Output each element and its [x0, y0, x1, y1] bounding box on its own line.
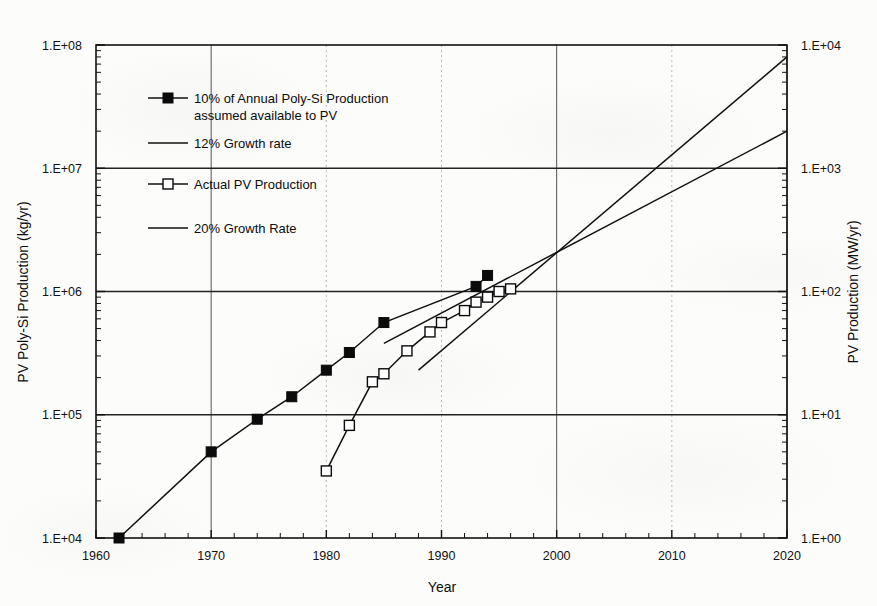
data-point-marker [287, 392, 297, 402]
x-tick-label: 1980 [312, 549, 340, 563]
x-axis-tick-labels: 1960197019801990200020102020 [82, 549, 801, 563]
data-point-marker [321, 365, 331, 375]
data-point-marker [379, 369, 389, 379]
y-left-axis-title: PV Poly-Si Production (kg/yr) [15, 201, 31, 382]
y-right-tick-label: 1.E+01 [801, 408, 841, 422]
data-point-marker [206, 447, 216, 457]
data-point-marker [506, 284, 516, 294]
y-left-axis-ticks [96, 45, 105, 538]
y-left-tick-label: 1.E+07 [42, 162, 82, 176]
series-line [119, 275, 488, 538]
data-point-marker [483, 270, 493, 280]
y-right-tick-label: 1.E+02 [801, 285, 841, 299]
data-point-marker [252, 414, 262, 424]
legend-item: 12% Growth rate [148, 136, 292, 151]
x-tick-label: 2010 [658, 549, 686, 563]
y-right-tick-label: 1.E+03 [801, 162, 841, 176]
legend-marker-filled-square [163, 93, 173, 103]
series-line [384, 131, 787, 343]
y-right-tick-label: 1.E+00 [801, 532, 841, 546]
legend-label: 20% Growth Rate [194, 221, 297, 236]
data-point-marker [425, 327, 435, 337]
y-right-tick-label: 1.E+04 [801, 39, 841, 53]
data-marker-group [114, 270, 516, 543]
x-axis-ticks [96, 530, 787, 538]
data-point-marker [483, 292, 493, 302]
log-line-chart: 1960197019801990200020102020 1.E+041.E+0… [0, 0, 877, 606]
data-point-marker [460, 306, 470, 316]
legend-item: 20% Growth Rate [148, 221, 297, 236]
x-axis-title: Year [428, 579, 457, 595]
series-line [418, 57, 787, 370]
x-tick-label: 2000 [543, 549, 571, 563]
y-right-axis-tick-labels: 1.E+001.E+011.E+021.E+031.E+04 [801, 39, 841, 546]
legend-label: 12% Growth rate [194, 136, 292, 151]
legend-item: 10% of Annual Poly-Si Productionassumed … [148, 91, 388, 124]
y-left-tick-label: 1.E+08 [42, 39, 82, 53]
x-tick-label: 1970 [197, 549, 225, 563]
legend-label: Actual PV Production [194, 177, 317, 192]
chart-figure: 1960197019801990200020102020 1.E+041.E+0… [0, 0, 877, 606]
data-point-marker [114, 533, 124, 543]
data-point-marker [437, 318, 447, 328]
data-point-marker [402, 346, 412, 356]
x-tick-label: 1960 [82, 549, 110, 563]
x-tick-label: 1990 [428, 549, 456, 563]
y-right-axis-title: PV Production (MW/yr) [845, 220, 861, 363]
legend-item: Actual PV Production [148, 177, 317, 192]
legend-label: 10% of Annual Poly-Si Production [194, 91, 388, 106]
y-left-axis-tick-labels: 1.E+041.E+051.E+061.E+071.E+08 [42, 39, 82, 546]
legend-label-continued: assumed available to PV [194, 108, 337, 123]
data-point-marker [367, 377, 377, 387]
y-left-tick-label: 1.E+04 [42, 532, 82, 546]
data-point-marker [344, 347, 354, 357]
y-right-axis-ticks [778, 45, 787, 538]
legend-marker-open-square [163, 179, 173, 189]
data-point-marker [494, 287, 504, 297]
data-series-group [119, 57, 787, 538]
data-point-marker [471, 297, 481, 307]
data-point-marker [321, 466, 331, 476]
data-point-marker [471, 281, 481, 291]
y-left-tick-label: 1.E+05 [42, 408, 82, 422]
data-point-marker [344, 420, 354, 430]
y-left-tick-label: 1.E+06 [42, 285, 82, 299]
x-tick-label: 2020 [773, 549, 801, 563]
chart-legend: 10% of Annual Poly-Si Productionassumed … [148, 91, 388, 236]
data-point-marker [379, 318, 389, 328]
